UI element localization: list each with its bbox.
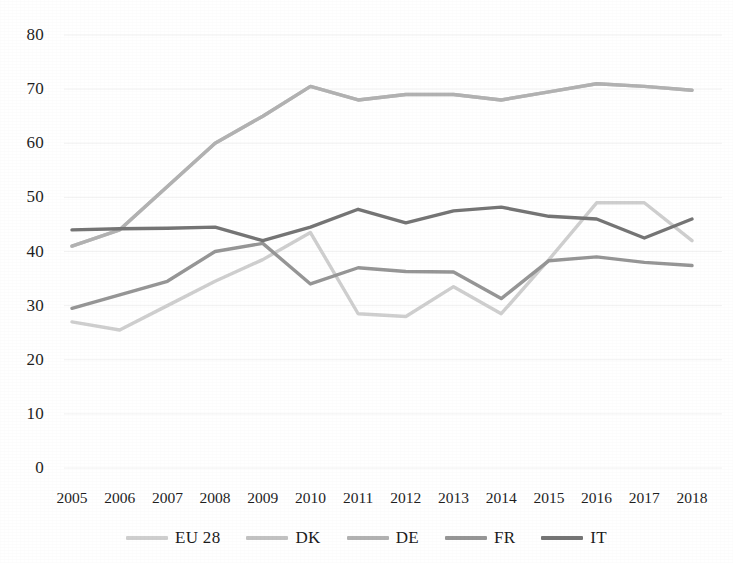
- y-tick-label: 50: [0, 188, 44, 205]
- legend-label: DK: [295, 528, 320, 548]
- legend-swatch-icon: [445, 536, 487, 540]
- series-line-it: [72, 207, 692, 241]
- series-line-eu-28: [72, 203, 692, 330]
- x-tick-label: 2010: [286, 490, 334, 506]
- legend-item-dk[interactable]: DK: [246, 528, 320, 548]
- x-tick-label: 2013: [430, 490, 478, 506]
- y-tick-label: 60: [0, 134, 44, 151]
- legend-item-fr[interactable]: FR: [445, 528, 515, 548]
- legend-swatch-icon: [246, 536, 288, 540]
- legend-label: IT: [590, 528, 607, 548]
- legend-label: FR: [494, 528, 515, 548]
- x-tick-label: 2012: [382, 490, 430, 506]
- y-tick-label: 40: [0, 243, 44, 260]
- x-tick-label: 2008: [191, 490, 239, 506]
- x-tick-label: 2006: [96, 490, 144, 506]
- x-tick-label: 2011: [334, 490, 382, 506]
- x-tick-label: 2017: [620, 490, 668, 506]
- x-axis-tick-labels: 2005200620072008200920102011201220132014…: [0, 483, 733, 513]
- legend-label: DE: [396, 528, 419, 548]
- y-tick-label: 20: [0, 351, 44, 368]
- plot-svg: [0, 0, 733, 483]
- x-tick-label: 2014: [477, 490, 525, 506]
- plot-area: 80706050403020100: [0, 0, 733, 483]
- x-tick-label: 2016: [573, 490, 621, 506]
- series-line-fr: [72, 243, 692, 308]
- x-tick-label: 2018: [668, 490, 716, 506]
- line-chart: 80706050403020100 2005200620072008200920…: [0, 0, 733, 563]
- legend-swatch-icon: [541, 536, 583, 540]
- legend-swatch-icon: [126, 536, 168, 540]
- chart-legend: EU 28DKDEFRIT: [0, 521, 733, 555]
- y-tick-label: 0: [0, 459, 44, 476]
- y-tick-label: 70: [0, 80, 44, 97]
- legend-item-it[interactable]: IT: [541, 528, 607, 548]
- x-tick-label: 2005: [48, 490, 96, 506]
- y-tick-label: 80: [0, 26, 44, 43]
- x-tick-label: 2009: [239, 490, 287, 506]
- legend-item-de[interactable]: DE: [347, 528, 419, 548]
- y-tick-label: 10: [0, 405, 44, 422]
- legend-swatch-icon: [347, 536, 389, 540]
- legend-label: EU 28: [175, 528, 220, 548]
- legend-item-eu-28[interactable]: EU 28: [126, 528, 220, 548]
- x-tick-label: 2007: [143, 490, 191, 506]
- x-tick-label: 2015: [525, 490, 573, 506]
- y-tick-label: 30: [0, 297, 44, 314]
